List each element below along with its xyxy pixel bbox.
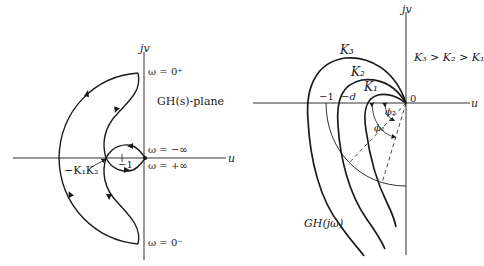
plane-label: GH(s)-plane bbox=[157, 96, 224, 107]
omega-neg-inf-label: ω = −∞ bbox=[148, 145, 188, 155]
minus-d-label: −d bbox=[341, 92, 356, 102]
angle-label-phi1: ϕ₁ bbox=[374, 123, 385, 133]
arrow-icon bbox=[106, 194, 112, 200]
arrow-icon bbox=[127, 143, 133, 149]
angle-label-phi2: ϕ₂ bbox=[385, 107, 396, 117]
curve-label-k1: K₁ bbox=[364, 81, 378, 93]
right-nyquist-plot bbox=[253, 12, 470, 256]
omega-top-label: ω = 0⁺ bbox=[148, 67, 183, 77]
arrow-icon bbox=[84, 90, 89, 97]
locus-label: GH(jω) bbox=[304, 218, 343, 229]
left-axis-v-label: jv bbox=[140, 43, 150, 54]
left-nyquist-plot bbox=[13, 52, 226, 260]
right-minus-one-label: −1 bbox=[319, 92, 334, 102]
crossing-label: −K₁K₂ bbox=[64, 165, 98, 176]
left-axis-h-label: u bbox=[228, 153, 235, 164]
phase-ray-1 bbox=[349, 103, 406, 163]
right-axis-v-label: jv bbox=[402, 4, 412, 15]
curve-label-k3: K₃ bbox=[340, 44, 354, 56]
left-minus-one-label: −1 bbox=[118, 160, 133, 170]
curve-label-k2: K₂ bbox=[351, 66, 365, 78]
gain-relation-label: K₃ > K₂ > K₁ bbox=[414, 52, 484, 63]
omega-bottom-label: ω = 0⁻ bbox=[148, 238, 183, 248]
right-axis-h-label: u bbox=[471, 98, 478, 109]
origin-label: 0 bbox=[410, 94, 416, 104]
omega-pos-inf-label: ω = +∞ bbox=[148, 161, 188, 171]
